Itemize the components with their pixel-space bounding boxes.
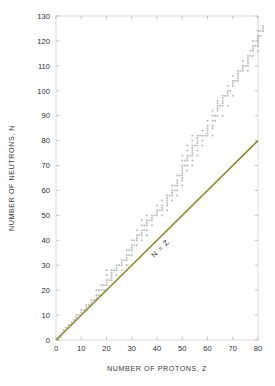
svg-text:10: 10 <box>42 311 50 320</box>
data-points <box>58 25 264 341</box>
scatter-plot: 0102030405060708001020304050607080901001… <box>0 0 275 386</box>
svg-text:N = Z: N = Z <box>149 238 171 260</box>
svg-text:60: 60 <box>42 186 50 195</box>
svg-text:40: 40 <box>153 344 161 353</box>
svg-text:70: 70 <box>42 161 50 170</box>
chart-figure: 0102030405060708001020304050607080901001… <box>0 0 275 386</box>
svg-text:60: 60 <box>203 344 211 353</box>
plot-frame <box>56 16 258 340</box>
svg-text:10: 10 <box>77 344 85 353</box>
svg-text:90: 90 <box>42 111 50 120</box>
svg-text:20: 20 <box>42 286 50 295</box>
svg-text:50: 50 <box>178 344 186 353</box>
svg-text:40: 40 <box>42 236 50 245</box>
y-axis-title: NUMBER OF NEUTRONS, N <box>7 125 16 231</box>
svg-text:80: 80 <box>254 344 262 353</box>
n-equals-z-annotation: N = Z <box>149 238 171 260</box>
svg-text:30: 30 <box>128 344 136 353</box>
n-equals-z-line <box>56 141 258 340</box>
svg-text:130: 130 <box>37 12 50 21</box>
svg-text:20: 20 <box>102 344 110 353</box>
svg-text:0: 0 <box>46 336 50 345</box>
svg-text:70: 70 <box>229 344 237 353</box>
svg-text:110: 110 <box>38 62 50 71</box>
svg-text:100: 100 <box>37 87 50 96</box>
svg-text:120: 120 <box>37 37 50 46</box>
x-axis-title: NUMBER OF PROTONS, Z <box>107 364 207 373</box>
svg-text:30: 30 <box>42 261 50 270</box>
axis-tick-labels: 0102030405060708001020304050607080901001… <box>37 12 262 353</box>
svg-text:0: 0 <box>54 344 58 353</box>
axis-ticks <box>56 16 258 340</box>
svg-text:80: 80 <box>42 136 50 145</box>
svg-text:50: 50 <box>42 211 50 220</box>
